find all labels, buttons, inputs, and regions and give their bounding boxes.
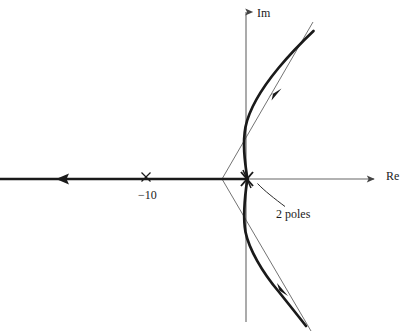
asymptote-group — [222, 22, 313, 331]
lower-complex-locus-branch — [244, 178, 306, 326]
upper-complex-locus-curve — [244, 31, 313, 180]
upper-complex-locus-arrowhead — [268, 89, 281, 101]
real-axis-locus-branch — [0, 174, 248, 185]
imaginary-axis-label: Im — [257, 7, 270, 19]
lower-asymptote-line — [222, 179, 311, 331]
axis-group — [2, 12, 374, 322]
two-poles-annotation-label: 2 poles — [276, 208, 310, 220]
upper-complex-locus-branch — [244, 31, 313, 180]
lower-complex-locus-curve — [244, 178, 306, 326]
pole-label-minus-ten: −10 — [138, 189, 157, 201]
real-axis-label: Re — [386, 170, 399, 182]
two-poles-leader-curve — [258, 184, 286, 207]
root-locus-figure: Im Re −10 2 poles — [0, 0, 403, 335]
root-locus-canvas — [0, 0, 403, 335]
